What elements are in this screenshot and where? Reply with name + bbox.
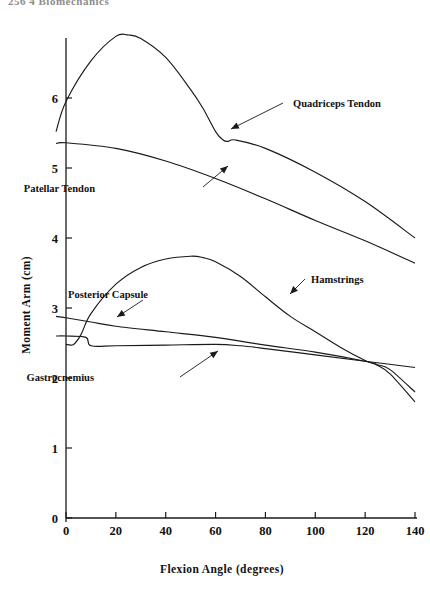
axes [66,38,417,522]
series-curve [56,316,415,392]
x-tick-label: 40 [159,524,172,538]
annotation-arrowhead [117,310,125,317]
data-curves [56,34,415,402]
annotation-arrowhead [220,166,228,174]
y-tick-label: 4 [52,232,59,246]
x-tick-label: 60 [209,524,222,538]
annotation-label: Patellar Tendon [24,183,95,194]
x-tick-label: 140 [406,524,425,538]
y-tick-label: 0 [52,512,58,526]
annotation-label: Posterior Capsule [68,289,148,300]
x-tick-label: 120 [356,524,375,538]
annotation-label: Gastrocnemius [27,372,94,383]
annotation-label: Quadriceps Tendon [293,98,381,109]
x-tick-label: 100 [306,524,325,538]
y-axis-title: Moment Arm (cm) [20,256,33,354]
series-curve [56,34,415,238]
y-axis-ticks: 0123456 [52,92,72,526]
annotation-label: Hamstrings [311,274,364,285]
series-curve [56,143,415,264]
x-tick-label: 80 [259,524,272,538]
figure-container: 256 4 Biomechanics 0123456 0204060801001… [0,0,430,590]
y-tick-label: 5 [52,162,58,176]
y-tick-label: 3 [52,302,58,316]
y-tick-label: 6 [52,92,58,106]
x-tick-label: 20 [110,524,123,538]
annotation-leader-line [231,103,283,129]
x-axis-title: Flexion Angle (degrees) [160,563,284,576]
annotation-arrowhead [210,351,218,358]
y-tick-label: 1 [52,442,58,456]
x-tick-label: 0 [63,524,69,538]
x-axis-ticks: 020406080100120140 [63,512,425,538]
moment-arm-line-chart: 0123456 020406080100120140 Quadriceps Te… [0,0,430,590]
